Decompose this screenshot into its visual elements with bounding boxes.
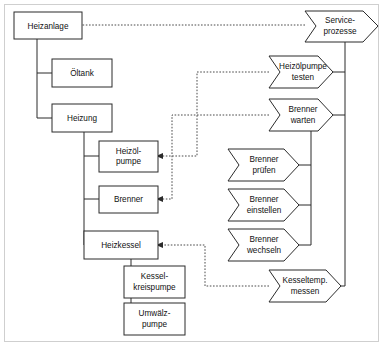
node-heizoelpumpe[interactable]: Heizöl- pumpe: [99, 141, 158, 172]
diagram-canvas: Heizanlage Öltank Heizung Heizöl- pumpe …: [0, 0, 383, 350]
diagram-svg: Heizanlage Öltank Heizung Heizöl- pumpe …: [0, 0, 383, 350]
node-kesseltemp-messen-label-line1: Kesseltemp.: [282, 276, 327, 285]
node-serviceprozesse[interactable]: Service- prozesse: [305, 11, 378, 42]
node-kesseltemp-messen-label-line2: messen: [291, 287, 320, 296]
node-brenner-wechseln[interactable]: Brenner wechseln: [228, 229, 299, 261]
node-heizoelpumpe-testen-label-line2: testen: [292, 73, 315, 82]
node-heizoelpumpe-label-line2: pumpe: [116, 157, 141, 166]
node-brenner[interactable]: Brenner: [99, 186, 158, 213]
node-serviceprozesse-label-line1: Service-: [325, 16, 355, 25]
node-brenner-wechseln-label-line1: Brenner: [249, 235, 278, 244]
node-umwaelzpumpe-label-line1: Umwälz-: [139, 309, 171, 318]
node-kesselkreispumpe-label-line2: kreispumpe: [133, 283, 176, 292]
node-brenner-pruefen-label-line1: Brenner: [249, 155, 278, 164]
node-serviceprozesse-label-line2: prozesse: [323, 27, 357, 36]
node-heizanlage-label: Heizanlage: [28, 22, 69, 31]
node-kesselkreispumpe-label-line1: Kessel-: [141, 272, 169, 281]
link-heizoelpumpe: [158, 72, 269, 156]
node-umwaelzpumpe-label-line2: pumpe: [142, 320, 167, 329]
node-oeltank-label: Öltank: [70, 68, 95, 78]
node-heizkessel[interactable]: Heizkessel: [84, 231, 158, 259]
node-heizoelpumpe-testen[interactable]: Heizölpumpe testen: [269, 56, 333, 88]
node-heizoelpumpe-testen-label-line1: Heizölpumpe: [279, 62, 327, 71]
node-brenner-einstellen-label-line2: einstellen: [247, 206, 282, 215]
node-oeltank[interactable]: Öltank: [52, 59, 112, 87]
node-brenner-wechseln-label-line2: wechseln: [246, 246, 282, 255]
node-brenner-einstellen[interactable]: Brenner einstellen: [228, 189, 299, 221]
node-heizung[interactable]: Heizung: [52, 104, 112, 132]
node-brenner-pruefen[interactable]: Brenner prüfen: [228, 149, 299, 181]
node-brenner-warten-label-line1: Brenner: [288, 105, 317, 114]
node-brenner-warten-label-line2: warten: [290, 116, 316, 125]
node-heizanlage[interactable]: Heizanlage: [14, 12, 82, 39]
node-heizung-label: Heizung: [67, 114, 97, 123]
node-kesseltemp-messen[interactable]: Kesseltemp. messen: [269, 270, 341, 302]
node-umwaelzpumpe[interactable]: Umwälz- pumpe: [124, 303, 185, 335]
node-heizkessel-label: Heizkessel: [101, 241, 141, 250]
node-kesselkreispumpe[interactable]: Kessel- kreispumpe: [124, 266, 185, 298]
node-brenner-label: Brenner: [114, 195, 143, 204]
node-heizoelpumpe-label-line1: Heizöl-: [116, 147, 142, 156]
node-brenner-einstellen-label-line1: Brenner: [249, 195, 278, 204]
node-brenner-warten[interactable]: Brenner warten: [269, 99, 333, 131]
node-brenner-pruefen-label-line2: prüfen: [252, 166, 276, 175]
